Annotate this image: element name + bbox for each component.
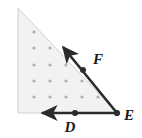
lattice-dot bbox=[80, 95, 83, 98]
lattice-dot bbox=[32, 63, 35, 66]
lattice-dot bbox=[64, 63, 67, 66]
lattice-dot bbox=[80, 79, 83, 82]
lattice-dot bbox=[48, 79, 51, 82]
lattice-dot bbox=[48, 95, 51, 98]
lattice-dot bbox=[48, 63, 51, 66]
point-e-marker bbox=[114, 110, 120, 116]
lattice-dot bbox=[64, 79, 67, 82]
lattice-dot bbox=[32, 79, 35, 82]
point-f-marker bbox=[80, 67, 86, 73]
point-f-label: F bbox=[92, 51, 103, 67]
lattice-dot bbox=[32, 46, 35, 49]
geometry-figure: E F D bbox=[0, 0, 142, 138]
figure-canvas: E F D bbox=[0, 0, 142, 138]
lattice-dot bbox=[48, 46, 51, 49]
lattice-dot bbox=[64, 95, 67, 98]
point-d-marker bbox=[72, 110, 78, 116]
point-e-label: E bbox=[123, 107, 134, 123]
lattice-dot bbox=[32, 30, 35, 33]
point-d-label: D bbox=[64, 119, 76, 135]
lattice-dot bbox=[96, 95, 99, 98]
lattice-dot bbox=[32, 95, 35, 98]
